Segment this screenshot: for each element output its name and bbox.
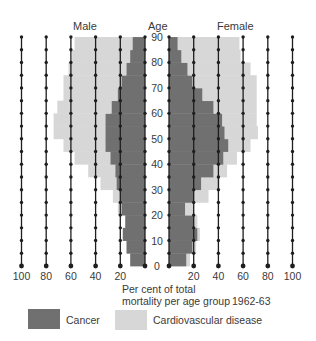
grid-dot: [217, 239, 220, 242]
grid-dot: [94, 86, 97, 89]
grid-dot: [192, 201, 195, 204]
grid-dot: [69, 150, 72, 153]
grid-dot: [119, 175, 122, 178]
grid-dot: [291, 61, 294, 64]
grid-dot: [94, 35, 97, 38]
grid-dot: [291, 112, 294, 115]
grid-dot: [143, 188, 146, 191]
grid-dot: [69, 48, 72, 51]
grid-dot: [45, 213, 48, 216]
grid-dot: [241, 213, 244, 216]
female-cancer-bar: [169, 241, 192, 254]
female-x-tick: 20: [188, 270, 200, 282]
grid-dot: [94, 252, 97, 255]
grid-dot: [217, 124, 220, 127]
grid-dot: [291, 175, 294, 178]
grid-dot: [266, 61, 269, 64]
grid-dot: [20, 124, 23, 127]
grid-dot: [241, 226, 244, 229]
male-cancer-bar: [122, 202, 145, 215]
grid-dot: [241, 48, 244, 51]
female-cancer-bar: [169, 190, 194, 203]
x-axis-caption-line1: Per cent of total: [122, 283, 230, 295]
grid-dot: [217, 74, 220, 77]
age-tick: 50: [151, 133, 163, 145]
grid-dot: [143, 74, 146, 77]
grid-dot: [216, 264, 221, 269]
grid-dot: [69, 86, 72, 89]
grid-dot: [266, 74, 269, 77]
grid-dot: [192, 99, 195, 102]
grid-dot: [167, 124, 170, 127]
grid-dot: [118, 264, 123, 269]
age-tick: 90: [151, 31, 163, 43]
grid-dot: [217, 163, 220, 166]
grid-dot: [20, 188, 23, 191]
grid-dot: [217, 150, 220, 153]
grid-dot: [217, 61, 220, 64]
male-cancer-bar: [118, 88, 145, 101]
grid-dot: [290, 264, 295, 269]
female-cardio-bar: [228, 139, 250, 152]
male-cancer-bar: [105, 113, 145, 126]
grid-dot: [167, 264, 172, 269]
age-tick: 80: [151, 56, 163, 68]
grid-dot: [167, 213, 170, 216]
age-tick: 10: [151, 235, 163, 247]
grid-dot: [167, 188, 170, 191]
grid-dot: [241, 61, 244, 64]
grid-dot: [45, 86, 48, 89]
female-cancer-bar: [169, 164, 213, 177]
bars-layer: [54, 37, 258, 266]
female-cardio-bar: [194, 190, 209, 203]
grid-dot: [167, 99, 170, 102]
grid-dot: [143, 137, 146, 140]
male-cardio-bar: [54, 113, 106, 126]
female-cardio-bar: [185, 202, 194, 215]
grid-dot: [20, 48, 23, 51]
grid-dot: [192, 163, 195, 166]
grid-dot: [119, 61, 122, 64]
grid-dot: [192, 124, 195, 127]
grid-dot: [291, 74, 294, 77]
grid-dot: [167, 112, 170, 115]
grid-dot: [94, 48, 97, 51]
grid-dot: [217, 188, 220, 191]
male-x-tick: 40: [90, 270, 102, 282]
male-x-tick: 100: [13, 270, 31, 282]
female-cardio-bar: [225, 126, 258, 139]
grid-dot: [241, 175, 244, 178]
grid-dot: [20, 175, 23, 178]
grid-dot: [94, 175, 97, 178]
grid-dot: [20, 35, 23, 38]
grid-dot: [291, 226, 294, 229]
grid-dot: [94, 201, 97, 204]
grid-dot: [45, 188, 48, 191]
tick-labels-layer: 1008060402020406080100010203040506070809…: [13, 31, 302, 282]
grid-dot: [143, 239, 146, 242]
grid-dot: [291, 239, 294, 242]
grid-dot: [20, 226, 23, 229]
grid-dot: [266, 112, 269, 115]
grid-dot: [69, 61, 72, 64]
grid-dot: [119, 239, 122, 242]
grid-dot: [20, 201, 23, 204]
female-cardio-bar: [202, 88, 256, 101]
male-cardio-bar: [113, 190, 120, 203]
female-cardio-bar: [178, 37, 240, 50]
grid-dot: [69, 264, 74, 269]
grid-dot: [119, 201, 122, 204]
grid-dot: [265, 264, 270, 269]
grid-dot: [143, 201, 146, 204]
grid-dot: [45, 35, 48, 38]
grid-dot: [94, 150, 97, 153]
grid-dot: [143, 48, 146, 51]
grid-dot: [119, 252, 122, 255]
grid-dot: [20, 239, 23, 242]
grid-dot: [167, 137, 170, 140]
grid-dot: [291, 213, 294, 216]
grid-dot: [94, 163, 97, 166]
male-cancer-bar: [130, 253, 145, 266]
period-label: 1962-63: [232, 295, 271, 307]
grid-dot: [192, 252, 195, 255]
